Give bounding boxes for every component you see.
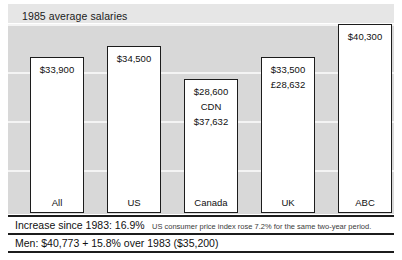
bar-abc-values: $40,300 — [339, 29, 391, 44]
bar-value-local: $37,632 — [185, 114, 237, 129]
bar-value: $33,500 — [262, 62, 314, 77]
footer-cpi-note: US consumer price index rose 7.2% for th… — [152, 222, 371, 231]
chart-title-band: 1985 average salaries — [8, 4, 394, 23]
bar-canada[interactable]: $28,600 CDN $37,632 Canada — [184, 79, 238, 213]
bar-canada-label: Canada — [185, 197, 237, 208]
bar-all-label: All — [31, 197, 83, 208]
footer-men-text: Men: $40,773 + 15.8% over 1983 ($35,200) — [15, 237, 218, 249]
bar-us-label: US — [108, 197, 160, 208]
bar-us-values: $34,500 — [108, 51, 160, 66]
page-title: 1985 average salaries — [22, 10, 127, 22]
footer-increase-text: Increase since 1983: 16.9% — [15, 219, 145, 231]
bar-value-local: £28,632 — [262, 77, 314, 92]
divider-top — [8, 215, 394, 217]
chart-page: 1985 average salaries $33,900 All $34,50… — [0, 0, 402, 260]
bar-uk[interactable]: $33,500 £28,632 UK — [261, 57, 315, 213]
bar-canada-values: $28,600 CDN $37,632 — [185, 84, 237, 129]
bar-uk-label: UK — [262, 197, 314, 208]
bar-value: $40,300 — [339, 29, 391, 44]
divider-bottom — [8, 251, 394, 253]
bar-us[interactable]: $34,500 US — [107, 46, 161, 213]
chart-plot-area: $33,900 All $34,500 US $28,600 CDN $37,6… — [8, 24, 394, 214]
bar-uk-values: $33,500 £28,632 — [262, 62, 314, 92]
bar-value: $34,500 — [108, 51, 160, 66]
bar-value: $28,600 — [185, 84, 237, 99]
gridline — [8, 24, 394, 26]
bar-abc-label: ABC — [339, 197, 391, 208]
bar-all[interactable]: $33,900 All — [30, 57, 84, 213]
bar-abc[interactable]: $40,300 ABC — [338, 24, 392, 213]
bar-value: $33,900 — [31, 62, 83, 77]
divider-middle — [8, 233, 394, 235]
bar-all-values: $33,900 — [31, 62, 83, 77]
bar-value-currency: CDN — [185, 99, 237, 114]
